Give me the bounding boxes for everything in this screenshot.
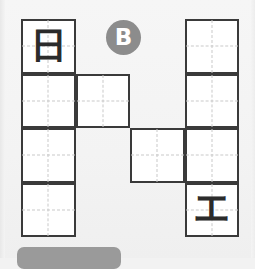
cell-guide-vertical	[211, 20, 212, 73]
katakana-e-glyph: エ	[187, 185, 238, 236]
cell-guide-vertical	[102, 75, 103, 128]
page-edge-left	[0, 0, 5, 258]
net-cell-r1c4[interactable]	[185, 19, 240, 74]
net-cell-r3c3[interactable]	[130, 128, 185, 183]
net-cell-r1c1[interactable]: 日	[21, 19, 76, 74]
cell-guide-vertical	[211, 129, 212, 182]
cell-guide-vertical	[211, 75, 212, 128]
net-cell-r4c1[interactable]	[21, 183, 76, 238]
kanji-sun-day-glyph: 日	[23, 21, 74, 72]
cell-guide-horizontal	[131, 155, 184, 156]
cell-guide-horizontal	[186, 100, 239, 101]
cell-guide-horizontal	[22, 209, 75, 210]
option-badge-label: B	[115, 26, 133, 49]
net-cell-r2c2[interactable]	[76, 74, 131, 129]
page-edge-right	[251, 0, 255, 258]
cell-guide-horizontal	[186, 155, 239, 156]
cell-guide-vertical	[48, 75, 49, 128]
cell-guide-horizontal	[77, 100, 130, 101]
net-cell-r2c4[interactable]	[185, 74, 240, 129]
cell-guide-horizontal	[186, 46, 239, 47]
net-cell-r3c1[interactable]	[21, 128, 76, 183]
cell-guide-vertical	[48, 184, 49, 237]
net-cell-r4c4[interactable]: エ	[185, 183, 240, 238]
cell-guide-horizontal	[22, 100, 75, 101]
cell-guide-horizontal	[22, 155, 75, 156]
cell-guide-vertical	[48, 129, 49, 182]
net-cell-r2c1[interactable]	[21, 74, 76, 129]
net-cell-r3c4[interactable]	[185, 128, 240, 183]
bottom-gray-bar	[17, 247, 121, 269]
option-badge-b: B	[106, 20, 141, 55]
cell-guide-vertical	[157, 129, 158, 182]
